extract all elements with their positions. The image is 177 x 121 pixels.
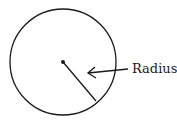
radius-line <box>63 62 96 101</box>
arrow-icon <box>88 67 128 78</box>
radius-label: Radius <box>132 61 177 77</box>
